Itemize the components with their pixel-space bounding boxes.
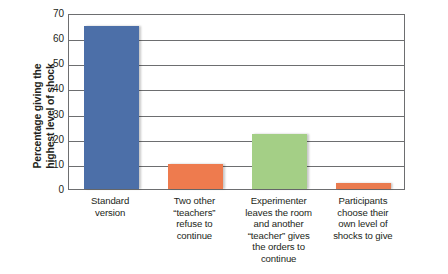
x-axis-label: Standard version [68, 195, 152, 218]
bar[interactable] [336, 183, 391, 189]
bar[interactable] [252, 134, 307, 189]
y-tick-label: 70 [53, 9, 64, 19]
y-tick-label: 10 [53, 160, 64, 170]
x-axis-label: Experimenter leaves the room and another… [237, 195, 321, 265]
bar[interactable] [168, 164, 223, 189]
x-axis-category-labels: Standard versionTwo other “teachers” ref… [68, 195, 405, 271]
x-axis-label: Participants choose their own level of s… [321, 195, 405, 241]
y-tick-label: 40 [53, 84, 64, 94]
y-tick-label: 0 [58, 185, 64, 195]
y-tick-label: 50 [53, 59, 64, 69]
plot-area [68, 14, 405, 190]
bar-slot [153, 15, 237, 189]
y-tick-label: 20 [53, 135, 64, 145]
y-axis-tick-labels: 70 60 50 40 30 20 10 0 [40, 14, 64, 190]
bar-slot [322, 15, 406, 189]
bar-chart: Percentage giving the highest level of s… [0, 0, 448, 274]
y-tick-label: 60 [53, 34, 64, 44]
bar-slot [238, 15, 322, 189]
y-tick-label: 30 [53, 110, 64, 120]
bar-series [69, 15, 404, 189]
x-axis-label: Two other “teachers” refuse to continue [152, 195, 236, 241]
bar[interactable] [84, 26, 139, 189]
bar-slot [69, 15, 153, 189]
